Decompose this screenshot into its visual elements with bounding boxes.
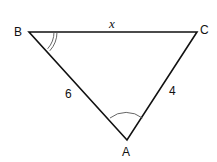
side-label-bc: x [108,16,115,31]
side-label-ac: 4 [169,84,176,98]
angle-mark-a [110,112,142,118]
vertex-label-a: A [122,145,130,159]
triangle-diagram: B C A x 6 4 [0,0,217,162]
vertex-label-b: B [14,25,22,39]
angle-mark-b-outer [50,32,57,51]
side-label-ab: 6 [65,87,72,101]
vertex-label-c: C [200,23,209,37]
